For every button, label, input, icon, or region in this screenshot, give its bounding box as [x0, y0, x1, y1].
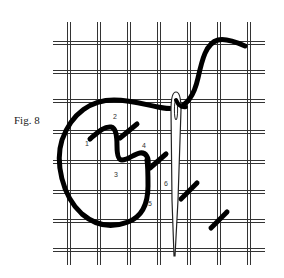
needle-icon: [171, 92, 186, 256]
figure-caption: Fig. 8: [14, 114, 40, 126]
step-label: 3: [114, 171, 118, 178]
stitch-diagram: Fig. 8 123456: [0, 0, 284, 278]
step-label: 1: [85, 140, 89, 147]
step-label: 2: [113, 113, 117, 120]
canvas-grid-diagram: [0, 0, 284, 278]
stitch-1-2-3: [90, 127, 148, 164]
step-label: 5: [148, 200, 152, 207]
step-label: 4: [142, 142, 146, 149]
step-label: 6: [164, 180, 168, 187]
